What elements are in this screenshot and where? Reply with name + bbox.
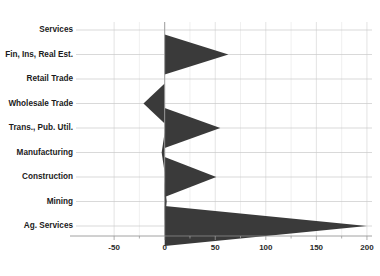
data-wedges-group xyxy=(143,34,367,246)
category-label: Retail Trade xyxy=(27,74,74,83)
label-leader-lines-group xyxy=(76,30,372,226)
category-label: Ag. Services xyxy=(24,221,74,230)
x-tick-label: 150 xyxy=(310,243,324,252)
data-wedge xyxy=(143,83,164,123)
category-label: Mining xyxy=(47,197,73,206)
category-label: Construction xyxy=(22,172,73,181)
category-labels-group: ServicesFin, Ins, Real Est.Retail TradeW… xyxy=(5,25,73,230)
category-label: Trans., Pub. Util. xyxy=(9,123,73,132)
x-tick-label: 100 xyxy=(259,243,273,252)
gridlines-group xyxy=(114,22,367,236)
x-tick-label: 0 xyxy=(162,243,167,252)
x-tick-label: 200 xyxy=(360,243,374,252)
wedge-chart: ServicesFin, Ins, Real Est.Retail TradeW… xyxy=(0,0,380,276)
x-tick-labels-group: -50050100150200 xyxy=(108,243,374,252)
category-label: Fin, Ins, Real Est. xyxy=(5,50,73,59)
category-label: Wholesale Trade xyxy=(8,99,73,108)
data-wedge xyxy=(162,132,165,172)
x-tick-label: 50 xyxy=(211,243,220,252)
data-wedge xyxy=(165,34,229,74)
data-wedge xyxy=(165,157,217,197)
category-label: Manufacturing xyxy=(17,148,73,157)
data-wedge xyxy=(165,108,221,148)
category-label: Services xyxy=(39,25,73,34)
x-tick-label: -50 xyxy=(108,243,120,252)
chart-container: ServicesFin, Ins, Real Est.Retail TradeW… xyxy=(0,0,380,276)
